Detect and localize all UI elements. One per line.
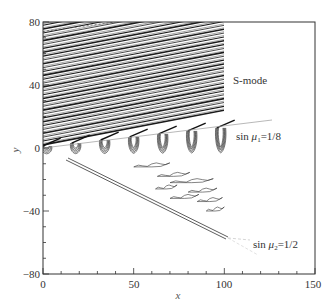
x-tick-labels: 0 50 100 150 xyxy=(40,278,322,290)
mach-line-mu2 xyxy=(66,158,258,255)
mu2-label: sin μ2=1/2 xyxy=(253,238,298,252)
xtick-50: 50 xyxy=(129,278,141,290)
y-tick-labels: 80 40 0 −40 −80 xyxy=(23,16,41,280)
ytick-neg80: −80 xyxy=(23,268,41,280)
xtick-0: 0 xyxy=(40,278,46,290)
s-mode-label: S-mode xyxy=(233,74,267,86)
contour-chart: 80 40 0 −40 −80 0 50 100 150 x y S-mode … xyxy=(0,0,336,307)
x-axis-label: x xyxy=(175,289,181,301)
ytick-0: 0 xyxy=(35,142,41,154)
ytick-80: 80 xyxy=(29,16,41,28)
mu1-label: sin μ1=1/8 xyxy=(236,130,281,144)
ytick-neg40: −40 xyxy=(23,205,41,217)
ytick-40: 40 xyxy=(29,79,41,91)
lower-contour-blobs xyxy=(134,163,224,211)
y-axis-label: y xyxy=(9,147,21,153)
xtick-150: 150 xyxy=(305,278,322,290)
xtick-100: 100 xyxy=(216,278,233,290)
